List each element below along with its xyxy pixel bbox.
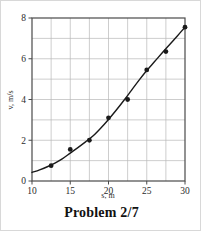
chart-plot-area: 1015202530 02468 s, m v, m/s xyxy=(1,1,201,201)
x-axis-label: s, m xyxy=(101,191,115,200)
data-point xyxy=(163,49,168,54)
x-tick-label: 25 xyxy=(142,186,152,196)
y-tick-label: 6 xyxy=(21,54,26,64)
data-point xyxy=(87,138,92,143)
data-point xyxy=(183,25,188,30)
x-tick-label: 15 xyxy=(66,186,76,196)
y-tick-label: 8 xyxy=(21,13,26,23)
data-point xyxy=(68,147,73,152)
y-axis-label: v, m/s xyxy=(6,90,15,109)
figure-problem-2-7: 1015202530 02468 s, m v, m/s Problem 2/7 xyxy=(0,0,201,231)
data-point xyxy=(49,163,54,168)
x-tick-label: 30 xyxy=(180,186,190,196)
y-tick-label: 4 xyxy=(21,95,26,105)
y-tick-label: 0 xyxy=(21,176,26,186)
figure-caption: Problem 2/7 xyxy=(1,205,201,221)
data-point xyxy=(106,115,111,120)
y-tick-label: 2 xyxy=(21,136,26,146)
data-point xyxy=(125,97,130,102)
data-point xyxy=(144,68,149,73)
scatter-chart: 1015202530 02468 s, m v, m/s xyxy=(1,1,201,201)
y-axis-tick-labels: 02468 xyxy=(21,13,26,186)
x-tick-label: 10 xyxy=(27,186,37,196)
